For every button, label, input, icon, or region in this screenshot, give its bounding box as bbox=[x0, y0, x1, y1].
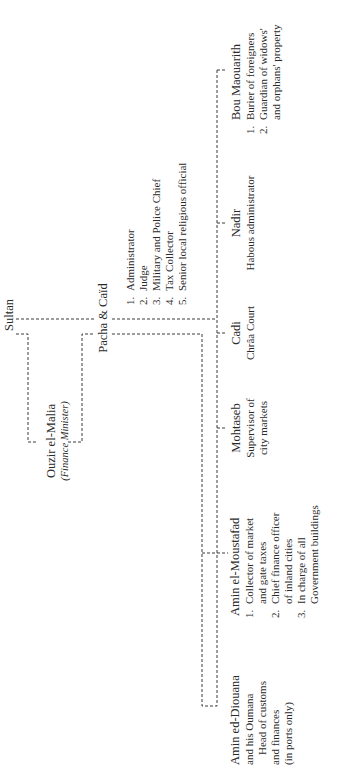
ouzir-to-pacha-line bbox=[68, 334, 94, 442]
pacha-duties: 1.Administrator 2.Judge 3.Military and P… bbox=[124, 105, 189, 305]
nadir-label: Nadir bbox=[229, 166, 244, 280]
node-sultan: Sultan bbox=[2, 293, 17, 337]
bou-maouarith-label: Bou Maouarith bbox=[229, 4, 244, 134]
duty-item: 3.Military and Police Chief bbox=[150, 105, 163, 305]
node-mohtaseb: Mohtaseb Supervisor of city markets bbox=[229, 388, 270, 468]
cadi-label: Cadi bbox=[229, 298, 244, 368]
moustafad-label: Amin el-Moustafad bbox=[228, 478, 243, 618]
sultan-label: Sultan bbox=[2, 293, 17, 337]
diouana-label: Amin ed-Diouana bbox=[228, 645, 243, 765]
ouzir-bracket-line bbox=[16, 334, 38, 442]
duty-item: 1.Administrator bbox=[124, 105, 137, 305]
duty-item: 2.Judge bbox=[137, 105, 150, 305]
node-cadi: Cadi Chrâa Court bbox=[229, 298, 257, 368]
node-amin-el-moustafad: Amin el-Moustafad 1.Collector of market … bbox=[228, 478, 321, 618]
duty-item: 4.Tax Collector bbox=[163, 105, 176, 305]
node-bou-maouarith: Bou Maouarith 1.Burier of foreigners 2.G… bbox=[229, 4, 283, 134]
org-chart: Sultan Ouzir el-Malia (Finance Minister)… bbox=[0, 0, 346, 765]
ouzir-label: Ouzir el-Malia bbox=[44, 396, 59, 486]
node-nadir: Nadir Habous administrator bbox=[229, 166, 257, 280]
duty-item: 5.Senior local religious official bbox=[176, 105, 189, 305]
pacha-label: Pacha & Caïd bbox=[96, 278, 111, 358]
ouzir-note: (Finance Minister) bbox=[59, 396, 71, 486]
node-ouzir-el-malia: Ouzir el-Malia (Finance Minister) bbox=[44, 396, 71, 486]
node-amin-ed-diouana: Amin ed-Diouana and his Oumana Head of c… bbox=[228, 645, 295, 765]
mohtaseb-label: Mohtaseb bbox=[229, 388, 244, 468]
pacha-to-diouana-line bbox=[112, 334, 217, 706]
node-pacha-caid: Pacha & Caïd bbox=[96, 278, 111, 358]
